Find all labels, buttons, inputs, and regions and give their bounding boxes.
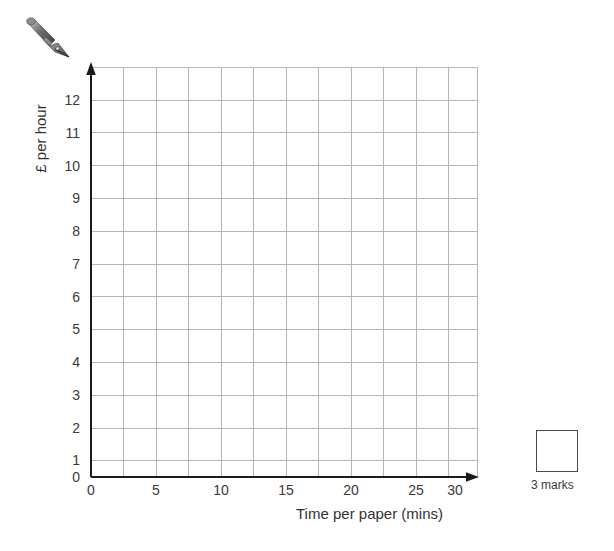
- y-tick-label-12: 12: [56, 92, 80, 108]
- y-axis-title: £ per hour: [32, 79, 49, 199]
- x-tick-label-10: 10: [206, 482, 236, 498]
- y-tick-label-10: 10: [56, 158, 80, 174]
- y-tick-label-9: 9: [56, 190, 80, 206]
- x-tick-label-25: 25: [401, 482, 431, 498]
- x-tick-label-15: 15: [271, 482, 301, 498]
- x-tick-label-30: 30: [440, 482, 470, 498]
- x-axis-title: Time per paper (mins): [296, 505, 443, 522]
- x-tick-label-5: 5: [141, 482, 171, 498]
- answer-box[interactable]: [536, 430, 578, 472]
- graph-plot-area[interactable]: 12 11 10 9 8 7 6 5 4 3 2 1 0 0 5 10 15 2…: [0, 0, 614, 551]
- y-tick-label-4: 4: [56, 354, 80, 370]
- marks-section: 3 marks: [531, 430, 591, 492]
- marks-label: 3 marks: [531, 478, 591, 492]
- y-tick-label-11: 11: [56, 125, 80, 141]
- y-tick-label-2: 2: [56, 420, 80, 436]
- x-tick-label-0: 0: [76, 482, 106, 498]
- y-tick-label-6: 6: [56, 289, 80, 305]
- y-tick-label-1: 1: [56, 452, 80, 468]
- y-tick-label-8: 8: [56, 223, 80, 239]
- worksheet-page: 12 11 10 9 8 7 6 5 4 3 2 1 0 0 5 10 15 2…: [0, 0, 614, 551]
- y-tick-label-5: 5: [56, 321, 80, 337]
- y-tick-label-7: 7: [56, 256, 80, 272]
- y-axis-arrow: [86, 62, 96, 75]
- grid-lines-horizontal: [91, 67, 477, 461]
- grid-lines-vertical: [91, 67, 477, 477]
- x-tick-label-20: 20: [336, 482, 366, 498]
- y-tick-label-3: 3: [56, 387, 80, 403]
